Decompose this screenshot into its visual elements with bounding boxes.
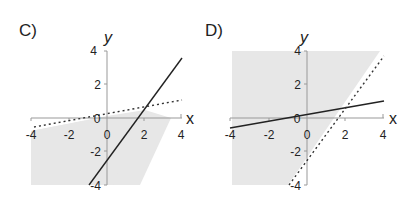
origin-label-c: 0 [94, 112, 101, 126]
xtick-d-4: 4 [380, 128, 387, 142]
figure: C) 4 2 -2 -4 0 -4 -2 0 2 4 [0, 0, 410, 203]
xtick-d-0: 0 [304, 128, 311, 142]
panel-d: D) 4 2 -2 -4 0 -4 -2 0 2 4 y [205, 21, 397, 193]
xtick-d-neg2: -2 [264, 128, 275, 142]
y-axis-label-c: y [103, 29, 113, 46]
xtick-c-neg2: -2 [64, 128, 75, 142]
ytick-c-neg2: -2 [90, 145, 101, 159]
panel-c: C) 4 2 -2 -4 0 -4 -2 0 2 4 [19, 21, 194, 193]
ytick-d-2: 2 [294, 78, 301, 92]
origin-label-d: 0 [294, 112, 301, 126]
ytick-d-neg4: -4 [290, 179, 301, 193]
ytick-c-2: 2 [94, 78, 101, 92]
xtick-c-4: 4 [178, 128, 185, 142]
ytick-d-neg2: -2 [290, 145, 301, 159]
xtick-d-neg4: -4 [225, 128, 236, 142]
xtick-c-0: 0 [104, 128, 111, 142]
y-axis-label-d: y [299, 29, 309, 46]
xtick-c-2: 2 [141, 128, 148, 142]
panel-label-d: D) [205, 21, 223, 40]
x-axis-label-d: x [389, 110, 397, 127]
xtick-d-2: 2 [342, 128, 349, 142]
x-axis-label-c: x [186, 110, 194, 127]
panel-label-c: C) [19, 21, 37, 40]
ytick-c-neg4: -4 [90, 179, 101, 193]
ytick-c-4: 4 [90, 44, 97, 58]
xtick-c-neg4: -4 [26, 128, 37, 142]
ytick-d-4: 4 [294, 44, 301, 58]
